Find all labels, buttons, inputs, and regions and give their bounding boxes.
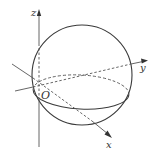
x-axis-outer-left (12, 64, 33, 78)
y-axis-inner-dashed (33, 64, 131, 87)
z-axis-arrow-icon (37, 9, 41, 16)
y-axis-label: y (140, 63, 146, 73)
diagram-graphic (0, 0, 157, 158)
origin-label: O (41, 90, 50, 101)
y-axis-outer-left (15, 87, 33, 91)
z-axis-label: z (31, 8, 36, 18)
x-axis-label: x (106, 140, 112, 150)
sphere-outline (32, 25, 132, 125)
sphere-diagram: z y x O (0, 0, 157, 158)
x-axis-outer-right (92, 121, 108, 134)
